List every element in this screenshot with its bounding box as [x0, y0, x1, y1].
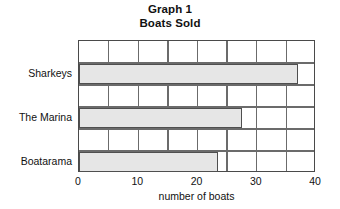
gridline-horizontal [79, 128, 314, 129]
bar [79, 152, 218, 172]
x-axis-label: number of boats [78, 190, 315, 202]
bar [79, 108, 242, 128]
x-tick-label: 20 [177, 175, 217, 187]
bar [79, 64, 298, 84]
x-tick-label: 40 [295, 175, 335, 187]
chart-title-line-2: Boats Sold [0, 17, 340, 31]
chart-title-line-1: Graph 1 [0, 3, 340, 17]
bar-chart: Graph 1 Boats Sold SharkeysThe MarinaBoa… [0, 0, 340, 209]
category-label: Boatarama [0, 155, 72, 167]
x-tick-label: 10 [117, 175, 157, 187]
plot-inner [79, 41, 314, 171]
category-label: The Marina [0, 111, 72, 123]
x-tick-label: 0 [58, 175, 98, 187]
plot-area [78, 40, 315, 172]
x-tick-label: 30 [236, 175, 276, 187]
category-label: Sharkeys [0, 67, 72, 79]
gridline-horizontal [79, 84, 314, 85]
chart-title: Graph 1 Boats Sold [0, 3, 340, 30]
